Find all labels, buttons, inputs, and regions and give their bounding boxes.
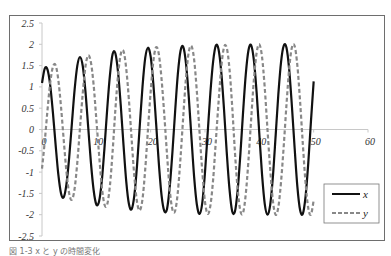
x-tick-label: 40 [256, 136, 266, 147]
legend-label-y: y [362, 207, 368, 219]
y-tick-label: 1 [29, 81, 34, 92]
line-chart: 2.521.510.50-0.5-1-1.5-2-2.5010203040506… [10, 16, 386, 242]
figure-caption: 図 1-3 x と y の時間変化 [9, 245, 100, 256]
legend-box [324, 184, 379, 223]
y-tick-label: -1 [26, 167, 34, 178]
y-tick-label: 1.5 [22, 60, 35, 71]
y-tick-label: -2 [26, 209, 34, 220]
y-tick-label: -1.5 [18, 188, 34, 199]
chart-frame: 2.521.510.50-0.5-1-1.5-2-2.5010203040506… [9, 15, 385, 241]
y-tick-label: 2 [29, 39, 34, 50]
legend-label-x: x [362, 188, 368, 200]
x-tick-label: 60 [365, 136, 375, 147]
y-tick-label: -0.5 [18, 145, 34, 156]
y-tick-label: 2.5 [22, 18, 35, 29]
y-tick-label: 0 [29, 124, 34, 135]
y-tick-label: 0.5 [22, 103, 35, 114]
x-tick-label: 50 [311, 136, 321, 147]
legend: x y [324, 184, 379, 223]
y-tick-label: -2.5 [18, 231, 34, 242]
